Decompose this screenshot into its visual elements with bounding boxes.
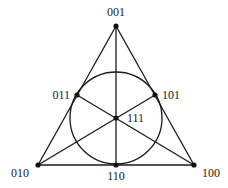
point-001 bbox=[113, 23, 118, 28]
fano-line-100-011 bbox=[77, 95, 194, 165]
point-101 bbox=[152, 92, 157, 97]
fano-plane-diagram: 001011101111010110100 bbox=[0, 0, 228, 188]
point-010 bbox=[35, 162, 40, 167]
point-label-001: 001 bbox=[107, 5, 125, 19]
point-label-110: 110 bbox=[107, 169, 125, 183]
point-label-101: 101 bbox=[162, 88, 180, 102]
point-110 bbox=[113, 162, 118, 167]
point-label-111: 111 bbox=[127, 111, 144, 125]
point-011 bbox=[74, 92, 79, 97]
point-label-010: 010 bbox=[11, 166, 29, 180]
fano-line-010-101 bbox=[38, 95, 155, 165]
point-label-100: 100 bbox=[202, 166, 220, 180]
point-111 bbox=[113, 115, 118, 120]
point-100 bbox=[191, 162, 196, 167]
point-label-011: 011 bbox=[52, 88, 70, 102]
